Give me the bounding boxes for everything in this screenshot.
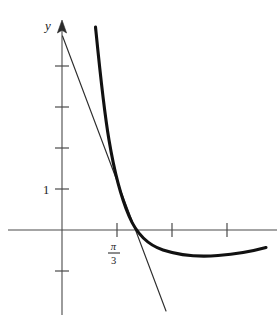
- graph-figure: y 1 π 3: [0, 0, 279, 317]
- x-tick-label-pi-over-3: π 3: [108, 241, 120, 266]
- y-tick-label-one: 1: [43, 183, 49, 197]
- y-axis-label: y: [43, 18, 51, 33]
- graph-svg: y 1 π 3: [0, 0, 279, 317]
- fraction-numerator-pi: π: [111, 241, 117, 252]
- function-curve: [96, 27, 267, 256]
- fraction-denominator-three: 3: [111, 255, 116, 266]
